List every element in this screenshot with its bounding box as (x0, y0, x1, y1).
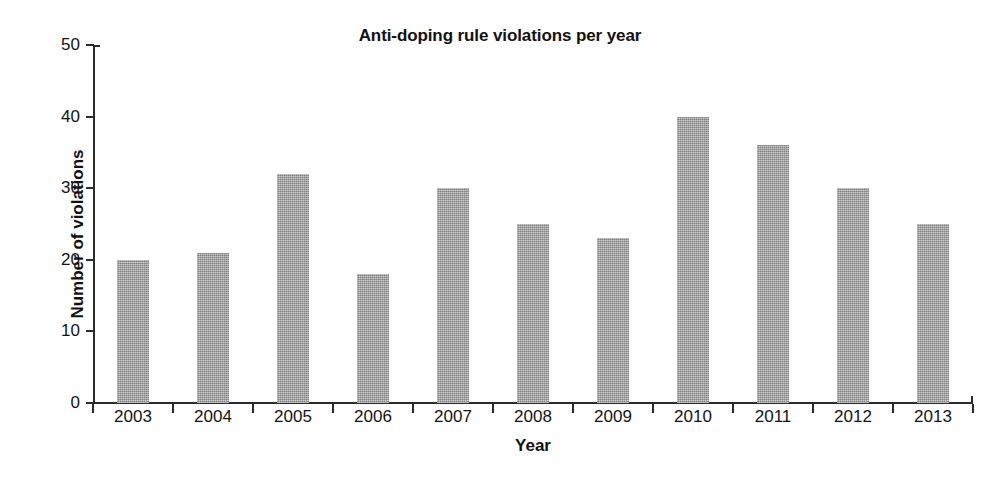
y-axis-top-cap (93, 45, 100, 47)
y-axis-tick (86, 187, 94, 189)
x-axis-tick-label: 2004 (173, 408, 253, 425)
bar (837, 188, 869, 403)
x-axis-tick-label: 2005 (253, 408, 333, 425)
x-axis-tick-label: 2010 (653, 408, 733, 425)
bar (517, 224, 549, 403)
x-axis-tick-label: 2008 (493, 408, 573, 425)
bar (917, 224, 949, 403)
y-axis-tick (86, 44, 94, 46)
bar (117, 260, 149, 403)
y-axis-tick-labels: 01020304050 (0, 0, 80, 478)
bar (277, 174, 309, 403)
x-axis-tick-label: 2006 (333, 408, 413, 425)
chart-title: Anti-doping rule violations per year (0, 26, 1000, 46)
y-axis-tick-label: 0 (8, 394, 80, 411)
x-axis-tick-label: 2012 (813, 408, 893, 425)
x-axis-label: Year (93, 436, 973, 456)
bar (197, 253, 229, 403)
bar (757, 145, 789, 403)
x-axis-tick-label: 2007 (413, 408, 493, 425)
y-axis-tick-label: 30 (8, 179, 80, 196)
bar-chart: Anti-doping rule violations per year Num… (0, 0, 1000, 478)
y-axis-tick (86, 259, 94, 261)
y-axis-line (93, 45, 95, 404)
y-axis-tick-label: 20 (8, 251, 80, 268)
bar (437, 188, 469, 403)
y-axis-tick-label: 40 (8, 108, 80, 125)
bar (357, 274, 389, 403)
bar (597, 238, 629, 403)
x-axis-right-cap (971, 396, 973, 404)
x-axis-tick-label: 2003 (93, 408, 173, 425)
x-axis-tick-label: 2009 (573, 408, 653, 425)
y-axis-tick (86, 330, 94, 332)
y-axis-tick-label: 50 (8, 36, 80, 53)
y-axis-tick (86, 116, 94, 118)
bar (677, 117, 709, 403)
x-axis-tick-label: 2013 (893, 408, 973, 425)
x-axis-tick-label: 2011 (733, 408, 813, 425)
y-axis-tick-label: 10 (8, 322, 80, 339)
